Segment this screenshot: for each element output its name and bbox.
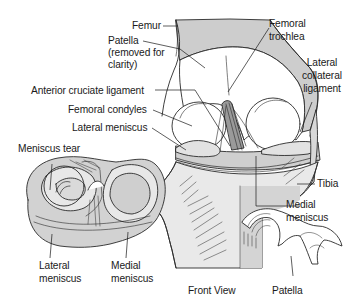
femur-outline <box>162 20 180 116</box>
label-lcl-line2: collateral <box>294 70 350 82</box>
label-patella: Patella <box>272 285 302 297</box>
label-lateral-meniscus-top-line1: Lateral <box>39 260 69 272</box>
label-lateral-meniscus-front: Lateral meniscus <box>72 122 147 134</box>
label-femoral-trochlea-line2: trochlea <box>269 31 304 43</box>
label-patella-removed-line2: (removed for <box>108 47 165 59</box>
label-meniscus-tear: Meniscus tear <box>18 143 80 155</box>
label-femur: Femur <box>132 20 161 32</box>
label-front-view: Front View <box>188 285 236 297</box>
label-patella-removed-line1: Patella <box>108 35 138 47</box>
label-lcl-line3: ligament <box>294 83 350 95</box>
label-medial-meniscus-front-line1: Medial <box>286 199 315 211</box>
label-lcl-line1: Lateral <box>298 57 346 69</box>
label-patella-removed-line3: clarity) <box>108 59 137 71</box>
label-medial-meniscus-top-line1: Medial <box>111 260 140 272</box>
top-view-tibial-plateau <box>27 157 166 248</box>
label-lateral-meniscus-top-line2: meniscus <box>39 273 81 285</box>
label-medial-meniscus-front-line2: meniscus <box>286 212 328 224</box>
label-tibia: Tibia <box>317 178 338 190</box>
label-anterior-cruciate-ligament: Anterior cruciate ligament <box>31 85 144 97</box>
label-femoral-trochlea-line1: Femoral <box>269 18 306 30</box>
label-femoral-condyles: Femoral condyles <box>68 104 147 116</box>
label-medial-meniscus-top-line2: meniscus <box>111 273 153 285</box>
